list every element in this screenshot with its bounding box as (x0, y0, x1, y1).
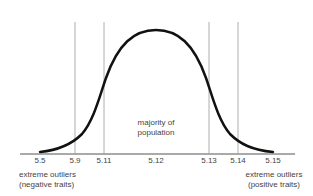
tick-label: 5.15 (265, 156, 281, 165)
right-outlier-label: extreme outliers (positive traits) (238, 170, 310, 190)
tick-label: 5.12 (148, 156, 164, 165)
center-label: majority of population (126, 118, 186, 138)
center-label-line1: majority of (126, 118, 186, 128)
left-label-line1: extreme outliers (19, 170, 76, 180)
tick-label: 5.14 (230, 156, 246, 165)
right-label-line2: (positive traits) (238, 180, 310, 190)
right-label-line1: extreme outliers (238, 170, 310, 180)
tick-label: 5.11 (97, 156, 112, 165)
tick-label: 5.13 (201, 156, 217, 165)
tick-label: 5.5 (34, 156, 45, 165)
center-label-line2: population (126, 128, 186, 138)
left-outlier-label: extreme outliers (negative traits) (19, 170, 76, 190)
bell-curve-diagram (0, 0, 313, 196)
left-label-line2: (negative traits) (19, 180, 76, 190)
tick-label: 5.9 (69, 156, 80, 165)
